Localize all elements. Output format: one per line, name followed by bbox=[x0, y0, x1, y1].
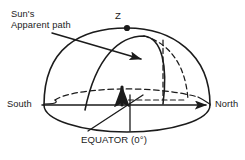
sun-apparent-path-label: Sun'sApparent path bbox=[11, 9, 71, 31]
sphere-lower-arc bbox=[44, 105, 210, 132]
polar-axis-line bbox=[88, 95, 143, 131]
sun-label-line-2: Apparent path bbox=[11, 20, 71, 30]
meridian-arc-dashed bbox=[144, 36, 188, 100]
zenith-label: Z bbox=[115, 10, 121, 21]
sun-label-line-1: Sun's bbox=[11, 9, 34, 19]
zenith-dot bbox=[124, 25, 130, 31]
sun-apparent-path-arrow bbox=[52, 33, 141, 59]
celestial-equator-dashed-back bbox=[55, 89, 198, 100]
celestial-equator-right-join bbox=[198, 97, 210, 104]
south-label: South bbox=[7, 99, 32, 110]
north-label: North bbox=[215, 99, 238, 110]
equator-label: EQUATOR (0°) bbox=[81, 134, 147, 145]
meridian-arc-solid bbox=[85, 36, 165, 110]
celestial-equator-left-join bbox=[44, 100, 56, 104]
celestial-sphere-diagram: Sun'sApparent path Z South North EQUATOR… bbox=[0, 0, 245, 160]
